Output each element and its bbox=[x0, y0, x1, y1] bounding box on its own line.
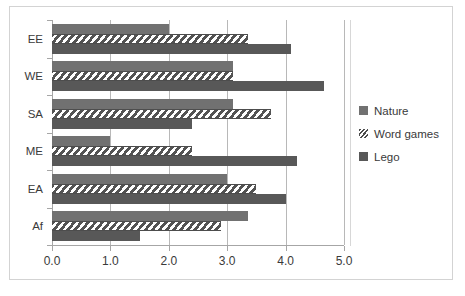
y-axis-label-ea: EA bbox=[28, 183, 43, 195]
y-tick-mark bbox=[47, 208, 52, 209]
bar-we-nature bbox=[52, 61, 233, 71]
x-tick-mark bbox=[52, 246, 53, 251]
y-tick-mark bbox=[47, 170, 52, 171]
y-tick-mark bbox=[47, 20, 52, 21]
bar-group-af bbox=[52, 208, 344, 246]
bar-me-lego bbox=[52, 156, 297, 166]
bar-me-nature bbox=[52, 136, 110, 146]
y-tick-mark bbox=[47, 58, 52, 59]
y-axis-label-af: Af bbox=[32, 220, 43, 232]
legend-item-word-games[interactable]: Word games bbox=[359, 122, 451, 145]
bar-ee-word-games bbox=[52, 34, 248, 44]
bar-ea-word-games bbox=[52, 184, 256, 194]
bar-ee-lego bbox=[52, 44, 291, 54]
bar-sa-lego bbox=[52, 119, 192, 129]
x-axis-tick-label: 2.0 bbox=[149, 254, 189, 268]
y-axis-labels: EEWESAMEEAAf bbox=[10, 20, 43, 245]
x-tick-mark bbox=[344, 246, 345, 251]
y-tick-mark bbox=[47, 95, 52, 96]
y-axis-label-ee: EE bbox=[28, 33, 43, 45]
lego-swatch-icon bbox=[359, 152, 368, 161]
legend-label: Word games bbox=[374, 128, 439, 140]
y-axis-label-sa: SA bbox=[28, 108, 43, 120]
bar-ee-nature bbox=[52, 24, 169, 34]
bar-group-ea bbox=[52, 170, 344, 208]
bar-af-nature bbox=[52, 211, 248, 221]
y-tick-mark bbox=[47, 245, 52, 246]
y-axis-label-me: ME bbox=[26, 145, 43, 157]
x-axis-tick-label: 5.0 bbox=[324, 254, 364, 268]
bar-af-lego bbox=[52, 231, 140, 241]
legend-label: Nature bbox=[374, 105, 409, 117]
x-tick-mark bbox=[110, 246, 111, 251]
bar-sa-nature bbox=[52, 99, 233, 109]
bar-ea-lego bbox=[52, 194, 286, 204]
y-tick-mark bbox=[47, 133, 52, 134]
plot-area bbox=[52, 20, 344, 245]
bar-af-word-games bbox=[52, 221, 221, 231]
x-tick-mark bbox=[227, 246, 228, 251]
x-tick-mark bbox=[169, 246, 170, 251]
x-axis-line bbox=[52, 245, 344, 246]
x-tick-mark bbox=[286, 246, 287, 251]
gridline-5.0 bbox=[344, 20, 345, 245]
bar-me-word-games bbox=[52, 146, 192, 156]
legend-label: Lego bbox=[374, 151, 400, 163]
bar-we-lego bbox=[52, 81, 324, 91]
nature-swatch-icon bbox=[359, 106, 368, 115]
x-axis-tick-label: 3.0 bbox=[207, 254, 247, 268]
bar-ea-nature bbox=[52, 174, 227, 184]
bar-sa-word-games bbox=[52, 109, 271, 119]
legend-item-lego[interactable]: Lego bbox=[359, 145, 451, 168]
bar-group-we bbox=[52, 58, 344, 96]
bar-group-me bbox=[52, 133, 344, 171]
chart-figure: EEWESAMEEAAf NatureWord gamesLego 0.01.0… bbox=[9, 6, 453, 280]
x-axis-tick-label: 4.0 bbox=[266, 254, 306, 268]
y-axis-label-we: WE bbox=[24, 70, 43, 82]
legend-item-nature[interactable]: Nature bbox=[359, 99, 451, 122]
x-axis-tick-label: 1.0 bbox=[90, 254, 130, 268]
word-games-swatch-icon bbox=[359, 129, 368, 138]
legend-separator bbox=[350, 20, 351, 246]
bar-we-word-games bbox=[52, 71, 233, 81]
chart-legend: NatureWord gamesLego bbox=[359, 99, 451, 168]
x-axis-tick-label: 0.0 bbox=[32, 254, 72, 268]
bar-group-ee bbox=[52, 20, 344, 58]
bar-group-sa bbox=[52, 95, 344, 133]
